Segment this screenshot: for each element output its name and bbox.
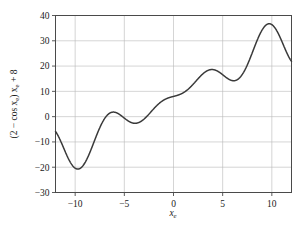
y-tick-label: 20 — [40, 61, 50, 71]
y-tick-label: 0 — [45, 112, 50, 122]
line-chart: −10−50510 −30−20−10010203040 xe (2 − cos… — [0, 0, 308, 235]
y-tick-label: −20 — [35, 163, 50, 173]
figure-container: −10−50510 −30−20−10010203040 xe (2 − cos… — [0, 0, 308, 235]
y-tick-label: −30 — [35, 188, 50, 198]
y-axis-title: (2 − cos xe) xe + 8 — [9, 69, 20, 138]
y-tick-label: 10 — [40, 87, 50, 97]
x-tick-label: 0 — [171, 199, 176, 209]
x-tick-label: 10 — [267, 199, 277, 209]
y-tick-label: 40 — [40, 11, 50, 21]
x-tick-label: −10 — [68, 199, 83, 209]
x-tick-label: 5 — [220, 199, 225, 209]
x-tick-label: −5 — [119, 199, 129, 209]
y-tick-label: −10 — [35, 137, 50, 147]
y-tick-label: 30 — [40, 36, 50, 46]
